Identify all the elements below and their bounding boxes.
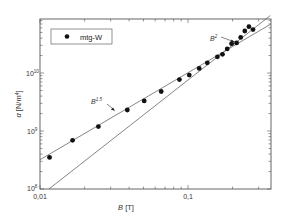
legend: mtg-W: [51, 29, 112, 44]
data-point: [220, 52, 225, 57]
data-point: [242, 29, 247, 34]
arrow-icon: [231, 40, 236, 43]
data-point: [197, 66, 202, 71]
data-point: [251, 27, 256, 32]
data-point: [238, 35, 243, 40]
data-point: [142, 99, 147, 104]
data-point: [125, 108, 130, 113]
chart: 1010 109 108 0,01 0,1 B [T] α [N/m4] mtg…: [0, 0, 285, 224]
x-axis-label: B [T]: [118, 203, 134, 212]
y-tick-label-1e8: 108: [27, 184, 38, 192]
data-point: [205, 60, 210, 65]
y-tick-label-1e10: 1010: [26, 69, 39, 77]
svg-text:B2: B2: [210, 34, 218, 42]
data-point: [96, 124, 101, 129]
y-tick-label-1e9: 109: [27, 127, 38, 135]
data-point: [234, 41, 239, 46]
legend-marker-icon: [65, 34, 70, 39]
data-point: [47, 155, 52, 160]
annotation-b1.5: B1.5: [91, 97, 115, 111]
svg-text:B1.5: B1.5: [91, 97, 102, 105]
data-point: [177, 77, 182, 82]
data-point: [159, 89, 164, 94]
x-tick-label-0.01: 0,01: [33, 193, 47, 200]
data-point: [215, 54, 220, 59]
y-axis-label: α [N/m4]: [14, 90, 24, 117]
data-point: [247, 24, 252, 29]
data-points: [47, 24, 255, 160]
data-point: [70, 138, 75, 143]
data-point: [187, 73, 192, 78]
legend-label: mtg-W: [80, 33, 103, 42]
annotation-b2: B2: [210, 34, 235, 43]
data-point: [225, 47, 230, 52]
x-tick-label-0.1: 0,1: [183, 193, 193, 200]
